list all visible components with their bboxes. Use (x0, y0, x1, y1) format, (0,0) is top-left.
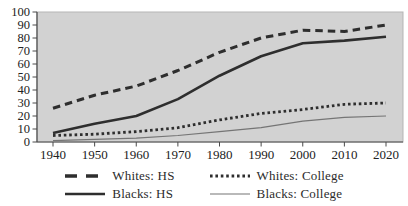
legend-item-blacks-college: Blacks: College (209, 186, 344, 202)
x-tick-label: 1970 (165, 147, 191, 162)
chart-svg: 0102030405060708090100194019501960197019… (0, 0, 408, 164)
x-tick-label: 2020 (373, 147, 399, 162)
y-tick-label: 20 (18, 109, 31, 123)
legend-item-whites-hs: Whites: HS (64, 168, 174, 184)
legend-swatch-blacks-college-icon (209, 188, 251, 200)
y-tick-label: 60 (18, 57, 31, 71)
legend-swatch-whites-college-icon (209, 170, 251, 182)
y-tick-label: 50 (18, 70, 31, 84)
x-tick-label: 1950 (82, 147, 108, 162)
chart-legend: Whites: HSWhites: CollegeBlacks: HSBlack… (0, 168, 408, 202)
legend-label: Blacks: HS (112, 186, 173, 202)
legend-item-whites-college: Whites: College (209, 168, 344, 184)
legend-swatch-whites-hs-icon (64, 170, 106, 182)
y-tick-label: 30 (18, 96, 31, 110)
x-tick-label: 1990 (248, 147, 274, 162)
legend-label: Whites: College (257, 168, 344, 184)
y-tick-label: 90 (18, 18, 31, 32)
legend-label: Whites: HS (112, 168, 174, 184)
figure: 0102030405060708090100194019501960197019… (0, 0, 408, 206)
y-tick-label: 80 (18, 31, 31, 45)
legend-label: Blacks: College (257, 186, 343, 202)
plot-area (37, 12, 403, 142)
y-tick-label: 0 (24, 135, 30, 149)
legend-item-blacks-hs: Blacks: HS (64, 186, 174, 202)
y-tick-label: 100 (11, 5, 30, 19)
y-tick-label: 10 (18, 122, 31, 136)
x-tick-label: 2010 (331, 147, 357, 162)
legend-swatch-blacks-hs-icon (64, 188, 106, 200)
y-tick-label: 70 (18, 44, 31, 58)
x-tick-label: 1960 (123, 147, 149, 162)
y-tick-label: 40 (18, 83, 31, 97)
x-tick-label: 1980 (207, 147, 233, 162)
x-tick-label: 1940 (40, 147, 66, 162)
x-tick-label: 2000 (290, 147, 316, 162)
